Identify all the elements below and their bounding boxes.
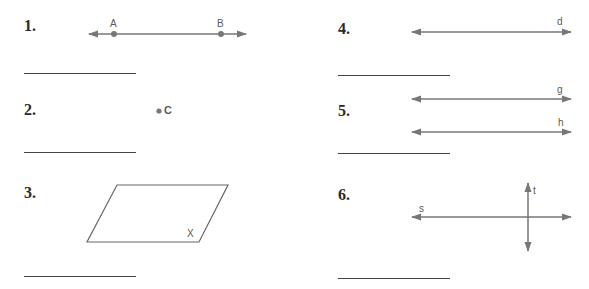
label-a: A bbox=[110, 18, 117, 29]
figures-canvas bbox=[0, 0, 589, 289]
label-g: g bbox=[557, 84, 563, 95]
point-c-dot bbox=[156, 108, 161, 113]
label-x: X bbox=[187, 228, 194, 239]
plane-x-parallelogram bbox=[87, 185, 228, 242]
label-c: C bbox=[164, 104, 172, 116]
label-d: d bbox=[557, 16, 563, 27]
label-s: s bbox=[419, 203, 424, 214]
point-a-dot bbox=[111, 31, 117, 37]
point-b-dot bbox=[218, 31, 224, 37]
label-t: t bbox=[533, 185, 536, 196]
line-ab-figure bbox=[89, 31, 246, 37]
label-b: B bbox=[217, 18, 224, 29]
label-h: h bbox=[558, 117, 564, 128]
